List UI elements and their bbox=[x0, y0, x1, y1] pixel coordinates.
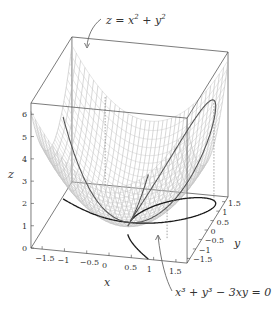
curve-annotation-arrow bbox=[158, 236, 172, 291]
surface-mesh-line bbox=[71, 55, 227, 131]
x-tick-label: −1.5 bbox=[35, 254, 54, 263]
y-tick-label: 1.5 bbox=[228, 199, 241, 208]
surface-equation-label: z = x2 + y2 bbox=[105, 13, 166, 27]
x-tick-label: 0.5 bbox=[124, 263, 137, 272]
z-tick-label: 0 bbox=[22, 244, 27, 253]
x-tick-label: 0 bbox=[102, 261, 107, 270]
box-edge bbox=[31, 37, 72, 103]
z-tick-label: 2 bbox=[22, 199, 27, 208]
z-tick-label: 1 bbox=[22, 222, 27, 231]
surface-annotation: z = x2 + y2 bbox=[85, 13, 167, 48]
z-tick-label: 4 bbox=[22, 155, 27, 164]
y-axis-label: y bbox=[233, 237, 241, 250]
surface-mesh-line bbox=[170, 86, 211, 191]
x-tick-label: 1 bbox=[147, 265, 152, 274]
box-edge bbox=[187, 52, 228, 118]
y-tick-label: 0.5 bbox=[216, 218, 229, 227]
surface-mesh-line bbox=[40, 61, 81, 166]
x-tick-label: 1.5 bbox=[169, 267, 182, 276]
surface-mesh-line bbox=[65, 94, 221, 170]
surface-mesh-line bbox=[72, 45, 228, 121]
curve-equation-label: x³ + y³ − 3xy = 0 bbox=[175, 286, 271, 299]
box-back-edges bbox=[31, 37, 228, 263]
surface-mesh-line bbox=[70, 63, 226, 139]
paraboloid-surface bbox=[31, 45, 228, 226]
x-tick-label: −1 bbox=[57, 256, 69, 265]
folium-planar-curve-branch bbox=[128, 235, 149, 260]
y-tick-label: −1.5 bbox=[193, 255, 212, 264]
box-edge bbox=[31, 182, 72, 248]
x-tick-label: −0.5 bbox=[80, 258, 99, 267]
z-axis-label: z bbox=[7, 168, 14, 181]
y-tick-label: −0.5 bbox=[205, 236, 224, 245]
z-tick-label: 5 bbox=[22, 133, 27, 142]
box-front-edges bbox=[31, 37, 228, 263]
surface-annotation-arrow bbox=[87, 19, 101, 46]
surface-mesh-line bbox=[48, 74, 89, 179]
z-tick-label: 6 bbox=[22, 110, 27, 119]
box-edge bbox=[72, 37, 228, 52]
y-tick-label: 1 bbox=[222, 208, 227, 217]
y-tick-label: 0 bbox=[211, 227, 216, 236]
y-tick-label: −1 bbox=[199, 246, 211, 255]
surface-mesh-line bbox=[42, 148, 198, 224]
plot-3d: 0123456−1.5−1−0.500.511.5−1.5−1−0.500.51… bbox=[0, 0, 274, 309]
z-tick-label: 3 bbox=[22, 177, 27, 186]
x-axis-label: x bbox=[104, 276, 111, 289]
